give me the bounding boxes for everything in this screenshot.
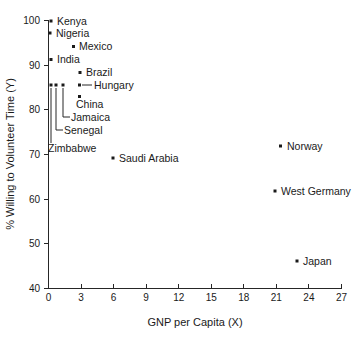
marker-brazil [79,71,82,74]
point-label-saudi-arabia: Saudi Arabia [119,152,179,164]
x-tick-label-12: 12 [173,292,185,303]
point-label-japan: Japan [303,255,332,267]
point-label-china: China [76,98,104,110]
point-label-norway: Norway [287,140,323,152]
x-tick-label-9: 9 [143,292,149,303]
marker-nigeria [49,32,52,35]
marker-hungary [78,84,81,87]
marker-norway [279,145,282,148]
y-tick-label-80: 80 [29,104,41,115]
marker-zimbabwe [50,84,53,87]
x-tick-label-6: 6 [111,292,117,303]
x-axis-tick-labels: 0 3 6 9 12 15 18 21 24 27 [46,292,348,303]
point-label-brazil: Brazil [86,66,112,78]
marker-saudi-arabia [112,157,115,160]
y-axis-title: % Willing to Volunteer Time (Y) [4,78,16,230]
point-label-kenya: Kenya [57,15,87,27]
leader-line-senegal [56,88,63,130]
y-tick-label-70: 70 [29,149,41,160]
x-tick-label-0: 0 [46,292,52,303]
point-label-hungary: Hungary [94,79,134,91]
point-label-senegal: Senegal [64,124,103,136]
marker-senegal [55,84,58,87]
point-label-india: India [57,53,80,65]
marker-jamaica [62,84,65,87]
data-point-labels: Kenya Nigeria Mexico India Brazil Hungar… [48,15,352,267]
chart-canvas: 40 50 60 70 80 90 100 0 3 6 9 12 [0,0,360,337]
x-tick-label-15: 15 [206,292,218,303]
x-tick-label-27: 27 [336,292,348,303]
y-tick-label-40: 40 [29,283,41,294]
marker-india [50,58,53,61]
y-tick-label-100: 100 [23,15,40,26]
point-label-jamaica: Jamaica [71,111,110,123]
y-tick-label-90: 90 [29,60,41,71]
y-tick-label-60: 60 [29,194,41,205]
marker-japan [296,260,299,263]
x-tick-label-24: 24 [303,292,315,303]
x-tick-label-3: 3 [78,292,84,303]
y-axis-ticks [44,21,49,289]
scatter-chart: 40 50 60 70 80 90 100 0 3 6 9 12 [0,0,360,337]
x-axis-ticks [49,284,342,289]
point-label-mexico: Mexico [79,40,112,52]
x-tick-label-21: 21 [271,292,283,303]
point-label-west-germany: West Germany [281,185,352,197]
x-tick-label-18: 18 [238,292,250,303]
y-axis-tick-labels: 40 50 60 70 80 90 100 [23,15,40,294]
y-tick-label-50: 50 [29,238,41,249]
marker-west-germany [274,190,277,193]
point-label-zimbabwe: Zimbabwe [48,142,97,154]
marker-kenya [50,20,53,23]
x-axis-title: GNP per Capita (X) [147,316,242,328]
point-label-nigeria: Nigeria [56,27,89,39]
leader-line-jamaica [63,88,70,117]
marker-mexico [72,45,75,48]
